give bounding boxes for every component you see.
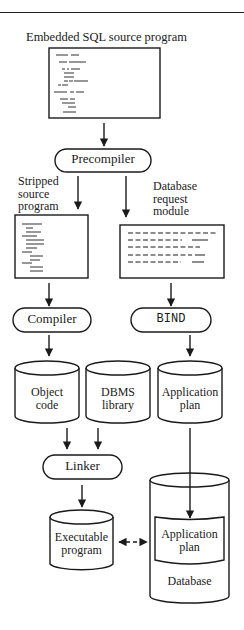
- label-line: DBMS: [86, 386, 150, 399]
- label-line: Application: [156, 386, 224, 399]
- label-line: Database: [153, 180, 197, 193]
- label-line: code: [15, 399, 79, 412]
- label-line: program: [18, 200, 59, 213]
- executable-program-label: Executable program: [48, 531, 115, 556]
- label-line: Object: [15, 386, 79, 399]
- precompiler-label: Precompiler: [55, 152, 151, 166]
- request-module-label: Database request module: [153, 180, 197, 218]
- label-line: plan: [156, 399, 224, 412]
- label-line: plan: [155, 541, 224, 554]
- application-plan-label: Application plan: [156, 386, 224, 411]
- label-line: program: [48, 544, 115, 557]
- object-code-label: Object code: [15, 386, 79, 411]
- dbms-library-label: DBMS library: [86, 386, 150, 411]
- bind-label: BIND: [131, 313, 211, 326]
- label-line: library: [86, 399, 150, 412]
- label-line: Stripped: [18, 175, 59, 188]
- label-line: Executable: [48, 531, 115, 544]
- label-line: Application: [155, 528, 224, 541]
- source-program-box: [49, 48, 160, 118]
- compiler-label: Compiler: [13, 312, 91, 326]
- label-line: module: [153, 205, 197, 218]
- linker-label: Linker: [43, 459, 122, 473]
- database-application-plan-label: Application plan: [155, 528, 224, 553]
- stripped-source-label: Stripped source program: [18, 175, 59, 213]
- database-label: Database: [150, 575, 229, 588]
- source-program-label: Embedded SQL source program: [26, 31, 187, 44]
